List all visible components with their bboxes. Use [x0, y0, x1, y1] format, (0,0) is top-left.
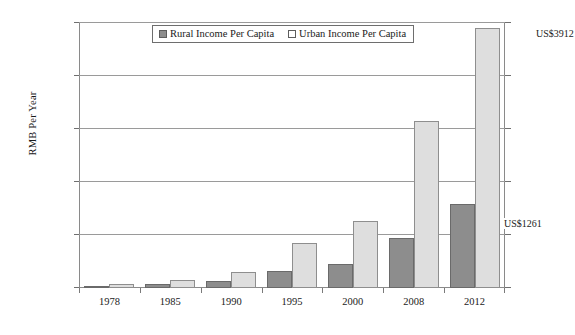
x-tick-mark [201, 288, 202, 293]
bar-1978-urban [109, 284, 134, 288]
chart-legend: Rural Income Per Capita Urban Income Per… [152, 25, 414, 43]
bar-2008-urban [414, 121, 439, 288]
x-tick-mark [444, 288, 445, 293]
y-tick-mark [74, 75, 79, 76]
gridline [79, 128, 505, 129]
y-axis-title: RMB Per Year [27, 44, 38, 204]
y-tick-mark [505, 75, 511, 76]
bar-1990-rural [206, 281, 231, 288]
legend-label-rural: Rural Income Per Capita [170, 28, 274, 39]
gridline [79, 181, 505, 182]
annotation-2012-rural: US$1261 [503, 218, 543, 229]
x-tick-mark [140, 288, 141, 293]
y-axis-line [79, 22, 80, 288]
right-axis-line [504, 22, 505, 288]
x-tick-mark [322, 288, 323, 293]
gridline [79, 234, 505, 235]
plot-area: 0500010000150002000025000 19781985199019… [79, 22, 505, 288]
x-tick-mark [504, 288, 505, 293]
bar-1985-urban [170, 280, 195, 288]
y-tick-mark [74, 22, 79, 23]
bar-2012-rural [450, 204, 475, 288]
bar-1995-rural [267, 271, 292, 288]
bar-2012-urban [475, 28, 500, 288]
legend-swatch-urban-icon [288, 30, 296, 38]
y-tick-mark [74, 128, 79, 129]
y-tick-mark [505, 181, 511, 182]
legend-label-urban: Urban Income Per Capita [299, 28, 406, 39]
legend-entry-rural: Rural Income Per Capita [159, 28, 274, 39]
y-tick-mark [505, 128, 511, 129]
bar-1978-rural [84, 286, 109, 288]
gridline [79, 22, 505, 23]
y-tick-mark [74, 181, 79, 182]
bar-1985-rural [145, 284, 170, 288]
legend-entry-urban: Urban Income Per Capita [288, 28, 406, 39]
bar-1995-urban [292, 243, 317, 288]
x-tick-mark [383, 288, 384, 293]
y-tick-mark [505, 22, 511, 23]
x-tick-mark [79, 288, 80, 293]
x-tick-mark [262, 288, 263, 293]
y-tick-mark [74, 234, 79, 235]
bar-2000-urban [353, 221, 378, 288]
x-axis-label-2012: 2012 [435, 296, 515, 307]
annotation-2012-urban: US$3912 [535, 28, 575, 39]
bar-2008-rural [389, 238, 414, 288]
y-tick-mark [505, 287, 511, 288]
legend-swatch-rural-icon [159, 30, 167, 38]
y-tick-mark [505, 234, 511, 235]
bar-2000-rural [328, 264, 353, 288]
bar-1990-urban [231, 272, 256, 288]
gridline [79, 75, 505, 76]
